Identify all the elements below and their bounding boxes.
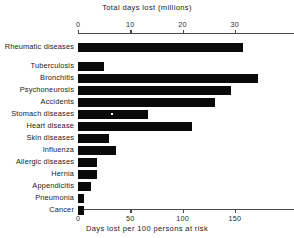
- bar-row: Appendicitis: [78, 182, 274, 191]
- bar: [78, 158, 97, 167]
- bar: [78, 146, 116, 155]
- bar-row: Tuberculosis: [78, 62, 274, 71]
- bar-row: Skin diseases: [78, 134, 274, 143]
- bar-category-label: Psychoneurosis: [20, 85, 74, 94]
- bar: [78, 194, 84, 203]
- top-tick-label: 0: [76, 20, 80, 29]
- bar-category-label: Accidents: [41, 97, 74, 106]
- bottom-axis-title: Days lost per 100 persons at risk: [0, 224, 294, 233]
- bar: [78, 98, 215, 107]
- bar-category-label: Tuberculosis: [31, 61, 74, 70]
- bar-category-label: Cancer: [49, 205, 74, 214]
- bar: [78, 86, 231, 95]
- bar: [78, 62, 104, 71]
- top-tick-mark: [235, 30, 236, 33]
- bar-row: Allergic diseases: [78, 158, 274, 167]
- bar: [78, 182, 91, 191]
- bar-category-label: Allergic diseases: [16, 157, 74, 166]
- bar: [78, 74, 258, 83]
- bar: [78, 43, 243, 52]
- bar-row: Pneumonia: [78, 194, 274, 203]
- bottom-tick-label: 0: [76, 214, 80, 223]
- bar-category-label: Stomach diseases: [11, 109, 74, 118]
- bar-category-label: Skin diseases: [26, 133, 74, 142]
- bar: [78, 122, 192, 131]
- plot-area: 0102030 050100150 Rheumatic diseasesTube…: [78, 33, 273, 211]
- bar-row: Accidents: [78, 98, 274, 107]
- bar-chart: Total days lost (millions) 0102030 05010…: [0, 0, 294, 238]
- bottom-tick-label: 150: [229, 214, 242, 223]
- top-tick-mark: [78, 30, 79, 33]
- bar-row: Rheumatic diseases: [78, 43, 274, 52]
- bar-category-label: Heart disease: [26, 121, 74, 130]
- top-tick-label: 10: [126, 20, 134, 29]
- bar-speck-artifact: [111, 113, 113, 115]
- top-tick-mark: [130, 30, 131, 33]
- bar-row: Stomach diseases: [78, 110, 274, 119]
- bar-row: Hernia: [78, 170, 274, 179]
- bottom-axis-line-extension: [274, 209, 294, 210]
- bar: [78, 134, 109, 143]
- bar-category-label: Influenza: [43, 145, 74, 154]
- bar: [78, 170, 97, 179]
- bar-category-label: Pneumonia: [35, 193, 74, 202]
- bar: [78, 110, 148, 119]
- top-axis-line: [78, 33, 274, 34]
- bar-row: Heart disease: [78, 122, 274, 131]
- top-tick-mark: [183, 30, 184, 33]
- bar-row: Cancer: [78, 206, 274, 215]
- bar-category-label: Hernia: [51, 169, 74, 178]
- bar: [78, 206, 84, 215]
- bar-row: Psychoneurosis: [78, 86, 274, 95]
- bar-category-label: Rheumatic diseases: [5, 42, 74, 51]
- bar-category-label: Bronchitis: [40, 73, 74, 82]
- top-tick-label: 20: [178, 20, 186, 29]
- top-axis-line-extension: [274, 33, 294, 34]
- bottom-tick-label: 50: [126, 214, 134, 223]
- bar-row: Bronchitis: [78, 74, 274, 83]
- bar-row: Influenza: [78, 146, 274, 155]
- top-axis-title: Total days lost (millions): [0, 3, 294, 12]
- bar-category-label: Appendicitis: [32, 181, 74, 190]
- bottom-tick-label: 100: [176, 214, 189, 223]
- top-tick-label: 30: [231, 20, 239, 29]
